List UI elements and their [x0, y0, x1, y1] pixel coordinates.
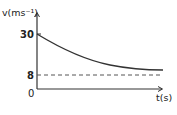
- tick-label-30: 30: [20, 29, 34, 40]
- velocity-time-graph: v(ms⁻¹) 30 8 0 t(s): [0, 0, 177, 115]
- tick-label-8: 8: [27, 70, 34, 81]
- y-axis-label: v(ms⁻¹): [2, 7, 38, 18]
- x-axis-label: t(s): [156, 92, 172, 103]
- velocity-curve: [37, 34, 163, 70]
- origin-label: 0: [28, 88, 34, 99]
